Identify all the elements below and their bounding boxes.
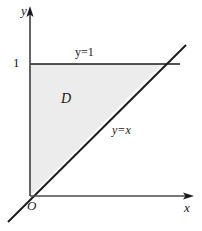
shaded-region-d bbox=[30, 64, 162, 196]
line-label-y-equals-x: y=x bbox=[112, 124, 131, 136]
region-label-d: D bbox=[61, 92, 71, 106]
y-axis-label: y bbox=[21, 4, 27, 17]
y-axis-tick-label-1: 1 bbox=[13, 56, 20, 69]
origin-label: O bbox=[27, 199, 36, 212]
line-label-y-equals-1: y=1 bbox=[75, 46, 94, 58]
coordinate-plane-svg bbox=[0, 0, 202, 231]
math-figure: y x 1 O y=1 y=x D bbox=[0, 0, 202, 231]
x-axis-label: x bbox=[184, 201, 190, 214]
